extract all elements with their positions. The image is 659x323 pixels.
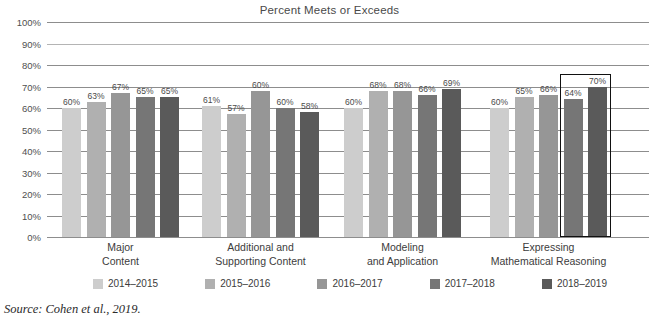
y-axis-tick-label: 20% <box>0 189 41 200</box>
legend-swatch <box>430 279 440 289</box>
y-axis-tick-label: 70% <box>0 81 41 92</box>
bar-group: 60%68%68%66%69% <box>344 22 467 237</box>
bar-value-label: 69% <box>443 78 460 88</box>
legend-swatch <box>205 279 215 289</box>
bar[interactable]: 64% <box>564 99 583 237</box>
legend-item[interactable]: 2015–2016 <box>205 278 270 289</box>
bar-value-label: 57% <box>227 103 244 113</box>
bar[interactable]: 60% <box>62 108 81 237</box>
bar[interactable]: 58% <box>300 112 319 237</box>
bar-value-label: 68% <box>394 80 411 90</box>
plot-area: 100%90%80%70%60%50%40%30%20%10%0%60%63%6… <box>47 22 649 237</box>
legend-label: 2014–2015 <box>108 278 158 289</box>
legend-label: 2017–2018 <box>445 278 495 289</box>
bar[interactable]: 65% <box>515 97 534 237</box>
bar-value-label: 61% <box>203 95 220 105</box>
bar[interactable]: 57% <box>227 114 246 237</box>
bar[interactable]: 70% <box>588 87 607 238</box>
y-axis-tick-label: 60% <box>0 103 41 114</box>
bar[interactable]: 65% <box>136 97 155 237</box>
bar[interactable]: 60% <box>344 108 363 237</box>
bar-value-label: 60% <box>345 97 362 107</box>
bar-value-label: 70% <box>589 76 606 86</box>
y-axis-tick-label: 40% <box>0 146 41 157</box>
bar[interactable]: 66% <box>539 95 558 237</box>
bar-value-label: 65% <box>136 86 153 96</box>
y-axis-tick-label: 10% <box>0 210 41 221</box>
legend-item[interactable]: 2014–2015 <box>93 278 158 289</box>
bar-value-label: 66% <box>540 84 557 94</box>
bar[interactable]: 68% <box>393 91 412 237</box>
bar[interactable]: 61% <box>202 106 221 237</box>
bar-value-label: 60% <box>63 97 80 107</box>
legend-label: 2018–2019 <box>557 278 607 289</box>
bar-value-label: 60% <box>276 97 293 107</box>
category-label-line: Expressing <box>459 241 639 255</box>
legend-label: 2015–2016 <box>220 278 270 289</box>
bar[interactable]: 60% <box>276 108 295 237</box>
chart-legend: 2014–20152015–20162016–20172017–20182018… <box>47 278 649 289</box>
y-axis-tick-label: 50% <box>0 124 41 135</box>
source-note: Source: Cohen et al., 2019. <box>4 302 141 317</box>
bar-value-label: 58% <box>301 101 318 111</box>
bar-value-label: 60% <box>491 97 508 107</box>
chart-title: Percent Meets or Exceeds <box>0 4 659 16</box>
y-axis-tick-label: 90% <box>0 38 41 49</box>
bar-value-label: 67% <box>112 82 129 92</box>
category-label-line: Mathematical Reasoning <box>459 255 639 269</box>
bar[interactable]: 68% <box>369 91 388 237</box>
bar-group: 61%57%60%60%58% <box>202 22 325 237</box>
y-axis-tick-label: 30% <box>0 167 41 178</box>
legend-swatch <box>542 279 552 289</box>
legend-item[interactable]: 2017–2018 <box>430 278 495 289</box>
category-label: ExpressingMathematical Reasoning <box>459 241 639 268</box>
bar-group: 60%65%66%64%70% <box>490 22 613 237</box>
y-axis-tick-label: 80% <box>0 60 41 71</box>
legend-label: 2016–2017 <box>332 278 382 289</box>
bar-value-label: 68% <box>369 80 386 90</box>
bar[interactable]: 69% <box>442 89 461 237</box>
legend-item[interactable]: 2018–2019 <box>542 278 607 289</box>
gridline-0 <box>47 237 649 238</box>
legend-swatch <box>93 279 103 289</box>
bar-value-label: 60% <box>252 80 269 90</box>
bar[interactable]: 65% <box>160 97 179 237</box>
bar[interactable]: 60% <box>490 108 509 237</box>
bar-group: 60%63%67%65%65% <box>62 22 185 237</box>
bar-value-label: 64% <box>564 88 581 98</box>
legend-swatch <box>317 279 327 289</box>
bar[interactable]: 66% <box>418 95 437 237</box>
bar-value-label: 63% <box>87 91 104 101</box>
bar-value-label: 65% <box>515 86 532 96</box>
bar[interactable]: 60% <box>251 91 270 237</box>
bar[interactable]: 63% <box>87 102 106 237</box>
legend-item[interactable]: 2016–2017 <box>317 278 382 289</box>
bar[interactable]: 67% <box>111 93 130 237</box>
bar-value-label: 65% <box>161 86 178 96</box>
y-axis-tick-label: 100% <box>0 17 41 28</box>
bar-value-label: 66% <box>418 84 435 94</box>
